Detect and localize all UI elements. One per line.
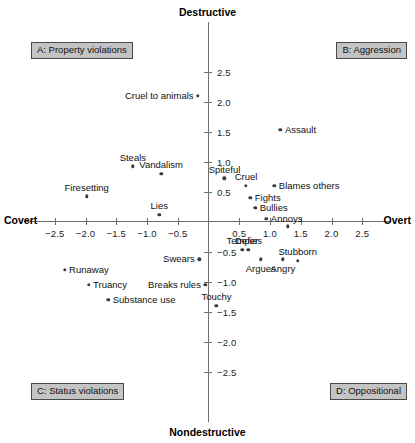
data-point [241, 248, 244, 251]
data-point [196, 94, 199, 97]
data-point [107, 298, 110, 301]
data-point [87, 283, 90, 286]
data-point-label: Angry [270, 264, 295, 274]
data-point-label: Substance use [113, 295, 176, 305]
data-point-label: Swears [163, 255, 195, 265]
quadrant-label-c: C: Status violations [31, 383, 124, 400]
y-tick-label: −1.5 [217, 306, 237, 317]
data-point-label: Cruel [235, 172, 258, 182]
data-point-label: Touchy [201, 292, 231, 302]
data-point-label: Lies [151, 201, 168, 211]
y-tick-label: 0.5 [217, 186, 231, 197]
axis-title-covert: Covert [4, 214, 37, 226]
data-point-label: Breaks rules [148, 280, 201, 290]
y-tick-label: −0.5 [217, 246, 237, 257]
scatter-plot-figure: −2.5−2.0−1.5−1.0−0.50.51.01.52.02.52.52.… [0, 0, 415, 443]
x-tick [55, 218, 56, 225]
axis-title-overt: Overt [384, 214, 411, 226]
y-tick [204, 372, 212, 373]
y-tick [204, 312, 212, 313]
data-point [279, 128, 282, 131]
y-tick-label: −2.0 [217, 336, 237, 347]
axis-title-nondestructive: Nondestructive [169, 426, 245, 438]
data-point [63, 268, 66, 271]
quadrant-label-d: D: Oppositional [330, 383, 407, 400]
quadrant-label-a: A: Property violations [31, 42, 133, 59]
data-point [273, 184, 276, 187]
data-point-label: Stubborn [278, 247, 317, 257]
data-point [249, 196, 252, 199]
y-tick-label: 1.5 [217, 126, 231, 137]
data-point [244, 184, 247, 187]
quadrant-label-b: B: Aggression [336, 42, 407, 59]
data-point-label: Vandalism [139, 160, 183, 170]
x-tick [332, 218, 333, 225]
data-point-label: Truancy [93, 280, 127, 290]
data-point [247, 248, 250, 251]
y-tick-label: −1.0 [217, 276, 237, 287]
y-tick [204, 132, 212, 133]
x-tick [86, 218, 87, 225]
x-tick [362, 218, 363, 225]
x-tick-label: 1.0 [263, 228, 277, 239]
y-tick-label: 2.0 [217, 96, 231, 107]
data-point-label: Fights [255, 193, 281, 203]
data-point [254, 206, 257, 209]
y-tick [204, 192, 212, 193]
x-tick-label: −2.0 [76, 228, 96, 239]
y-tick-label: 2.5 [217, 66, 231, 77]
data-point [223, 177, 226, 180]
y-tick-label: −2.5 [217, 366, 237, 377]
x-tick-label: −1.0 [137, 228, 157, 239]
x-tick [178, 218, 179, 225]
data-point-label: Defies [235, 236, 262, 246]
x-tick-label: −2.5 [45, 228, 65, 239]
data-point [158, 213, 161, 216]
x-tick-label: −1.5 [106, 228, 126, 239]
data-point [85, 195, 88, 198]
data-point [296, 259, 299, 262]
data-point [204, 283, 207, 286]
data-point [198, 258, 201, 261]
data-point-label: Firesetting [65, 182, 109, 192]
data-point [259, 258, 262, 261]
x-tick-label: −0.5 [168, 228, 188, 239]
data-point [131, 165, 134, 168]
y-axis-line [208, 22, 209, 422]
x-tick-label: 1.5 [294, 228, 308, 239]
data-point [286, 225, 289, 228]
data-point-label: Blames others [279, 181, 340, 191]
x-tick [116, 218, 117, 225]
data-point [281, 258, 284, 261]
axis-title-destructive: Destructive [179, 6, 236, 18]
data-point [159, 172, 162, 175]
y-tick [204, 72, 212, 73]
data-point-label: Assault [285, 125, 316, 135]
x-tick [147, 218, 148, 225]
data-point-label: Runaway [69, 265, 109, 275]
x-tick-label: 2.5 [355, 228, 369, 239]
y-tick [204, 342, 212, 343]
data-point-label: Annoys [271, 214, 303, 224]
y-tick [204, 102, 212, 103]
x-tick-label: 2.0 [325, 228, 339, 239]
data-point-label: Cruel to animals [125, 91, 194, 101]
data-point-label: Bullies [260, 203, 288, 213]
x-tick [239, 218, 240, 225]
y-tick [204, 252, 212, 253]
